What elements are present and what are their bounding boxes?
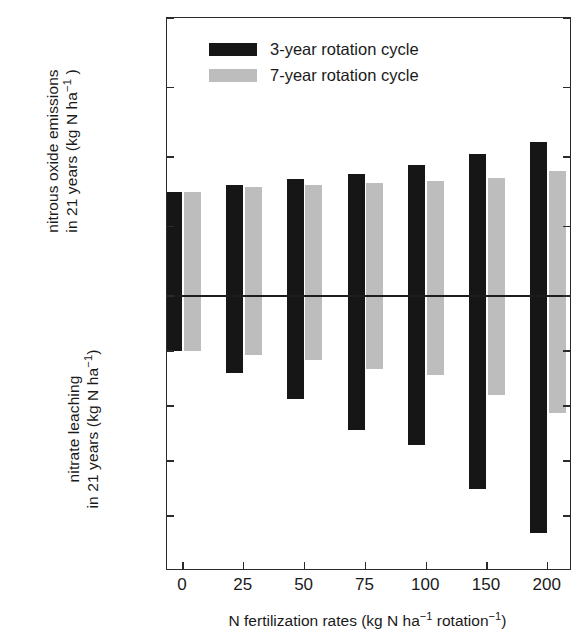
x-tick-label-50: 50 (269, 575, 339, 595)
y-axis-label-leaching-line2: in 21 years (kg N ha (84, 368, 101, 509)
y-tick-right-30 (563, 87, 570, 88)
bar-emissions-100-series0 (408, 165, 425, 296)
y-tick-40 (167, 17, 174, 18)
y-axis-label-emissions-line2: in 21 years (kg N ha (63, 92, 80, 233)
x-tick-label-0: 0 (147, 575, 217, 595)
y-tick--1200 (167, 515, 174, 516)
bar-emissions-150-series1 (488, 178, 505, 296)
x-axis-label-exponent-2: −1 (489, 610, 502, 622)
x-tick-200 (547, 562, 548, 569)
bar-leaching-50-series0 (287, 296, 304, 399)
y-tick-right--300 (563, 350, 570, 351)
bar-leaching-100-series0 (408, 296, 425, 445)
y-tick-0 (167, 295, 174, 296)
bar-leaching-200-series0 (530, 296, 547, 533)
bar-leaching-25-series1 (245, 296, 262, 355)
x-tick-50 (304, 562, 305, 569)
y-tick-right--900 (563, 460, 570, 461)
y-axis-label-emissions-exponent: −1 (61, 79, 73, 92)
bar-leaching-0-series0 (166, 296, 182, 351)
bar-leaching-150-series1 (488, 296, 505, 395)
legend-item-1: 7-year rotation cycle (209, 62, 419, 88)
bar-emissions-0-series1 (184, 192, 201, 296)
x-tick-25 (243, 562, 244, 569)
bar-emissions-75-series0 (348, 174, 365, 296)
x-tick-label-200: 200 (512, 575, 582, 595)
y-axis-label-emissions-line1: nitrous oxide emissions (44, 69, 61, 232)
y-tick-right--600 (563, 405, 570, 406)
x-tick-150 (486, 562, 487, 569)
y-tick-30 (167, 87, 174, 88)
x-tick-label-100: 100 (390, 575, 460, 595)
bar-emissions-25-series0 (226, 185, 243, 296)
y-axis-label-leaching: nitrate leaching in 21 years (kg N ha−1) (64, 304, 102, 554)
bar-leaching-200-series1 (549, 296, 566, 413)
x-axis-label-post: ) (501, 612, 506, 629)
legend-label-1: 7-year rotation cycle (270, 66, 419, 85)
y-tick-20 (167, 156, 174, 157)
y-tick-right-20 (563, 156, 570, 157)
x-axis-label-pre: N fertilization rates (kg N ha (229, 612, 420, 629)
x-axis-label-mid: rotation (433, 612, 489, 629)
bar-leaching-100-series1 (427, 296, 444, 375)
bar-emissions-200-series1 (549, 171, 566, 296)
plot-area: 3-year rotation cycle7-year rotation cyc… (166, 17, 571, 570)
y-axis-label-leaching-line2-post: ) (84, 350, 101, 355)
bar-emissions-50-series0 (287, 179, 304, 296)
legend: 3-year rotation cycle7-year rotation cyc… (209, 36, 419, 88)
bar-leaching-50-series1 (305, 296, 322, 360)
bar-leaching-75-series1 (366, 296, 383, 369)
x-tick-75 (365, 562, 366, 569)
x-axis-label: N fertilization rates (kg N ha−1 rotatio… (150, 612, 585, 630)
y-axis-label-emissions-line2-post: ) (63, 69, 80, 79)
y-tick--300 (167, 350, 174, 351)
x-tick-100 (426, 562, 427, 569)
y-axis-label-leaching-line1: nitrate leaching (65, 376, 82, 483)
x-axis-label-exponent-1: −1 (420, 610, 433, 622)
zero-baseline (167, 295, 570, 297)
bar-chart-figure: nitrous oxide emissions in 21 years (kg … (0, 0, 585, 643)
legend-swatch-icon-0 (209, 43, 257, 56)
bar-emissions-50-series1 (305, 185, 322, 296)
y-axis-label-emissions: nitrous oxide emissions in 21 years (kg … (43, 26, 81, 276)
bar-leaching-25-series0 (226, 296, 243, 373)
bar-emissions-25-series1 (245, 187, 262, 296)
x-tick-0 (182, 562, 183, 569)
x-tick-label-75: 75 (329, 575, 399, 595)
x-tick-label-150: 150 (451, 575, 521, 595)
bar-leaching-0-series1 (184, 296, 201, 351)
legend-swatch-icon-1 (209, 69, 257, 82)
y-tick-right--1200 (563, 515, 570, 516)
y-tick--900 (167, 460, 174, 461)
bar-emissions-0-series0 (166, 192, 182, 296)
legend-label-0: 3-year rotation cycle (270, 40, 419, 59)
bar-leaching-150-series0 (469, 296, 486, 489)
y-tick-10 (167, 226, 174, 227)
legend-item-0: 3-year rotation cycle (209, 36, 419, 62)
x-tick-label-25: 25 (208, 575, 278, 595)
y-tick-right-10 (563, 226, 570, 227)
y-axis-label-leaching-exponent: −1 (82, 355, 94, 368)
bar-emissions-100-series1 (427, 181, 444, 296)
bar-emissions-200-series0 (530, 142, 547, 296)
y-tick-right-40 (563, 17, 570, 18)
y-tick-right-0 (563, 295, 570, 296)
y-tick--600 (167, 405, 174, 406)
bar-leaching-75-series0 (348, 296, 365, 430)
bar-emissions-75-series1 (366, 183, 383, 296)
bar-emissions-150-series0 (469, 154, 486, 296)
